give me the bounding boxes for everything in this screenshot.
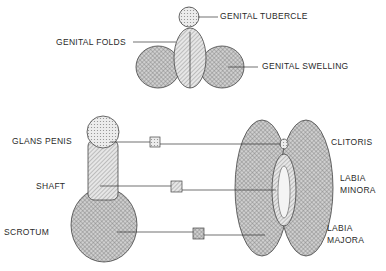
label-top: CLITORIS [331, 137, 372, 147]
label-inner-2: MINORA [340, 185, 376, 195]
label-sac: SCROTUM [4, 227, 49, 237]
inner-center [278, 166, 290, 218]
label-outer-2: MAJORA [327, 235, 364, 245]
label-folds: GENITAL FOLDS [56, 37, 126, 47]
label-shaft: SHAFT [36, 181, 65, 191]
label-outer-1: LABIA [327, 223, 353, 233]
left-structure [71, 116, 137, 262]
swelling-left [136, 46, 180, 88]
label-head: GLANS PENIS [12, 136, 72, 146]
shaft [88, 140, 118, 200]
label-inner-1: LABIA [340, 173, 366, 183]
label-tubercle: GENITAL TUBERCLE [220, 11, 308, 21]
head [87, 116, 119, 148]
top-point [280, 139, 288, 149]
right-structure [235, 120, 333, 256]
label-swelling: GENITAL SWELLING [262, 61, 349, 71]
tubercle [179, 7, 199, 27]
